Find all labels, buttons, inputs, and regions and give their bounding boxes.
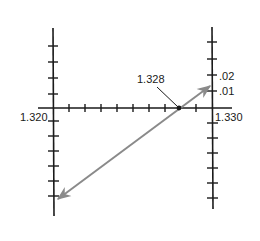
- nomograph-diagram: 1.328 1.320 1.330 .02 .01: [0, 0, 260, 241]
- label-1-330: 1.330: [215, 111, 243, 123]
- intersection-leader-line: [157, 87, 178, 107]
- label-0-01: .01: [219, 85, 234, 97]
- intersection-point: [177, 106, 182, 111]
- label-1-320: 1.320: [20, 111, 48, 123]
- horizontal-axis: [38, 104, 232, 112]
- label-1-328: 1.328: [137, 73, 165, 85]
- label-0-02: .02: [219, 70, 234, 82]
- left-vertical-axis: [48, 28, 59, 216]
- diagonal-arrow-line: [58, 86, 210, 199]
